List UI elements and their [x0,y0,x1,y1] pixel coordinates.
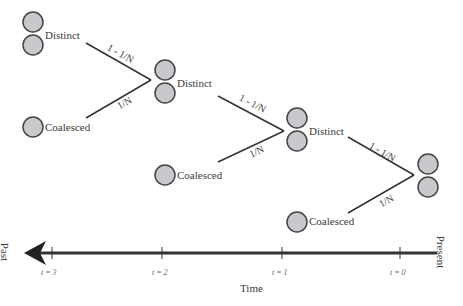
lineage-circle [23,35,43,55]
tick-label: t = 1 [272,268,288,277]
tick-label: t = 3 [41,268,57,277]
tick-label: t = 0 [390,268,406,277]
lineage-circle [23,12,43,32]
lineage-circle [155,60,175,80]
lineage-circle [287,131,307,151]
state-label-distinct: Distinct [309,126,344,137]
lineage-circle [287,212,307,232]
lineage-circle [418,154,438,174]
lineage-circle [155,83,175,103]
state-label-coalesced: Coalesced [309,216,354,227]
state-label-coalesced: Coalesced [45,122,90,133]
lineage-circle [418,177,438,197]
state-label-distinct: Distinct [45,30,80,41]
time-axis [24,241,437,265]
state-label-coalesced: Coalesced [177,170,222,181]
tick-label: t = 2 [152,268,168,277]
axis-past-label: Past [0,243,11,261]
lineage-circle [23,117,43,137]
axis-present-label: Present [435,236,447,268]
state-label-distinct: Distinct [177,78,212,89]
lineage-circle [287,108,307,128]
lineage-circle [155,165,175,185]
axis-title: Time [240,283,263,294]
